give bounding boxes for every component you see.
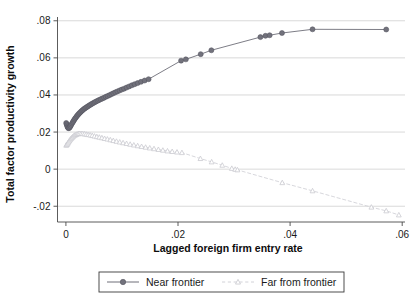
legend-label: Near frontier	[146, 276, 205, 288]
data-point	[209, 48, 214, 53]
x-tick-label-2: .04	[283, 229, 297, 240]
data-point	[280, 180, 285, 184]
data-point	[310, 27, 315, 32]
data-point	[267, 33, 272, 38]
data-point	[369, 205, 374, 209]
series-group	[64, 27, 402, 217]
series-line	[66, 134, 399, 215]
y-tick-label-1: 0	[45, 164, 51, 175]
x-tick-label-3: .06	[395, 229, 409, 240]
data-point	[179, 58, 184, 63]
chart-legend: Near frontierFar from frontier	[99, 272, 344, 292]
data-point	[139, 144, 144, 148]
data-point	[156, 147, 161, 151]
data-point	[279, 31, 284, 36]
data-point	[180, 150, 185, 154]
y-tick-label-4: .06	[37, 52, 51, 63]
x-tick-label-0: 0	[63, 229, 69, 240]
x-tick-label-1: .02	[171, 229, 185, 240]
data-point	[146, 77, 151, 82]
y-tick-label-5: .08	[37, 15, 51, 26]
legend-label: Far from frontier	[261, 276, 337, 288]
data-point	[384, 27, 389, 32]
series-far-from-frontier	[64, 131, 401, 217]
data-point	[396, 212, 401, 216]
x-axis-title: Lagged foreign firm entry rate	[153, 242, 303, 254]
y-axis-title: Total factor productivity growth	[4, 45, 16, 202]
y-tick-label-2: .02	[37, 127, 51, 138]
series-line	[66, 29, 386, 128]
chart-svg: -.020.02.04.06.080.02.04.06 Lagged forei…	[0, 0, 414, 296]
series-near-frontier	[64, 27, 389, 131]
legend-marker	[120, 279, 125, 284]
gridlines-group	[58, 21, 406, 206]
chart-figure: -.020.02.04.06.080.02.04.06 Lagged forei…	[0, 0, 414, 296]
axes-group	[54, 17, 406, 226]
y-tick-label-0: -.02	[33, 201, 51, 212]
y-tick-label-3: .04	[37, 89, 51, 100]
data-point	[198, 52, 203, 57]
data-point	[258, 35, 263, 40]
data-point	[183, 57, 188, 62]
